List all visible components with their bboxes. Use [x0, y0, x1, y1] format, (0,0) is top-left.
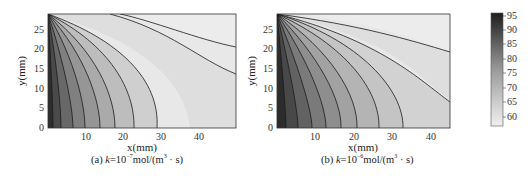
- svg-text:30: 30: [156, 131, 166, 142]
- svg-text:0: 0: [39, 122, 44, 133]
- contour-plot-b: [277, 14, 450, 128]
- plot-b-ylabel: y(mm): [245, 56, 258, 86]
- svg-text:75: 75: [507, 67, 517, 78]
- svg-text:25: 25: [34, 24, 44, 35]
- svg-text:80: 80: [507, 53, 517, 64]
- svg-text:25: 25: [263, 24, 273, 35]
- svg-text:20: 20: [263, 43, 273, 54]
- svg-text:15: 15: [263, 63, 273, 74]
- svg-text:5: 5: [39, 102, 44, 113]
- plot-a-ylabel: y(mm): [15, 56, 28, 86]
- colorbar-ticks: 95 90 85 80 75 70 65 60: [503, 10, 517, 122]
- svg-text:60: 60: [507, 111, 517, 122]
- caption-a: (a) k=10−7mol/(m3 · s): [91, 153, 183, 165]
- contour-plot-a: [48, 14, 236, 128]
- svg-text:0: 0: [268, 122, 273, 133]
- svg-text:30: 30: [387, 131, 397, 142]
- svg-text:10: 10: [263, 83, 273, 94]
- colorbar: 95 90 85 80 75 70 65 60: [491, 10, 517, 126]
- plot-b-yticks: 0 5 10 15 20 25: [263, 24, 273, 133]
- svg-text:40: 40: [194, 131, 204, 142]
- svg-text:15: 15: [34, 63, 44, 74]
- figure: 0 5 10 15 20 25 10 20 30 40 x(mm) y(mm): [0, 0, 531, 180]
- svg-text:10: 10: [34, 83, 44, 94]
- svg-text:85: 85: [507, 38, 517, 49]
- svg-text:20: 20: [34, 43, 44, 54]
- svg-text:95: 95: [507, 10, 517, 21]
- svg-text:5: 5: [268, 102, 273, 113]
- plot-a-yticks: 0 5 10 15 20 25: [34, 24, 44, 133]
- svg-text:10: 10: [310, 131, 320, 142]
- caption-b: (b) k=10−6mol/(m3 · s): [321, 153, 414, 165]
- svg-text:10: 10: [81, 131, 91, 142]
- svg-text:70: 70: [507, 82, 517, 93]
- svg-text:90: 90: [507, 24, 517, 35]
- svg-text:65: 65: [507, 96, 517, 107]
- svg-text:40: 40: [426, 131, 436, 142]
